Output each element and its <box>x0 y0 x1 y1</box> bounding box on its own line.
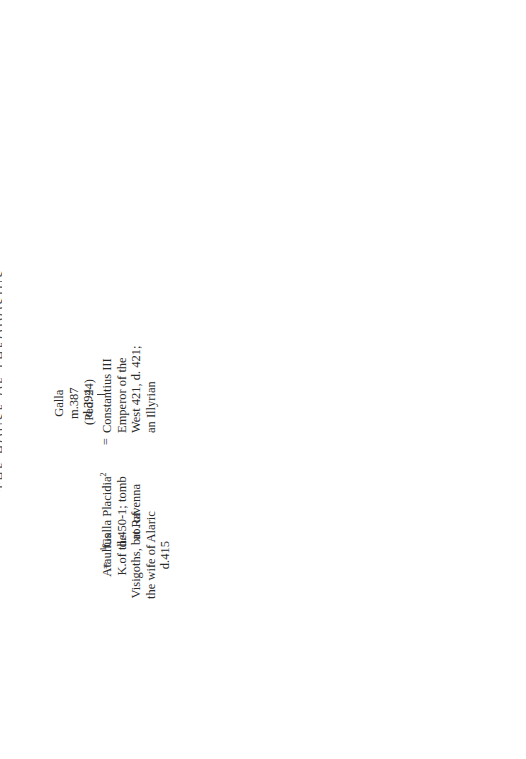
person-galla-label: Galla m.387 d.394 <box>52 387 96 419</box>
marriage-symbol: = <box>100 562 112 569</box>
marriage-symbol: = <box>100 438 112 445</box>
person-constantius-iii: Constantius III Emperor of the West 421,… <box>100 345 158 433</box>
person-galla-placidia: 1Galla Placidia2 d.450-1; tomb at Ravenn… <box>100 473 144 551</box>
page-title: THE HOUSE OF THEODOSIUS <box>0 0 2 759</box>
genealogy-page: THE HOUSE OF THEODOSIUS (Ped. 24) Ataulf… <box>0 0 526 759</box>
